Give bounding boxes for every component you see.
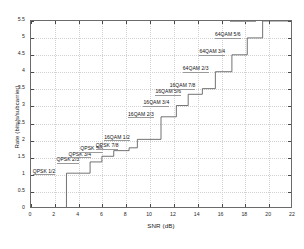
y-tick-label: 2 [0, 137, 25, 142]
y-tick-label: 3 [0, 103, 25, 108]
data-point-label: 16QAM 5/6 [155, 89, 181, 96]
staircase-curve [31, 21, 291, 207]
data-point-label: 64QAM 3/4 [199, 49, 225, 56]
x-tick-label: 20 [265, 212, 271, 217]
y-tick-label: 5.5 [0, 17, 25, 22]
x-tick-label: 4 [76, 212, 79, 217]
y-tick-label: 2.5 [0, 120, 25, 125]
y-tick-label: 0.5 [0, 188, 25, 193]
x-tick-label: 8 [124, 212, 127, 217]
x-axis-title: SNR (dB) [30, 222, 292, 229]
x-tick-label: 0 [29, 212, 32, 217]
data-point-label: 64QAM 2/3 [183, 66, 209, 73]
y-tick-label: 5 [0, 34, 25, 39]
y-tick-label: 0 [0, 205, 25, 210]
x-tick-label: 12 [170, 212, 176, 217]
data-point-label: QPSK 7/8 [96, 143, 119, 150]
y-tick-label: 3.5 [0, 86, 25, 91]
x-tick-label: 18 [241, 212, 247, 217]
data-point-label: QPSK 2/3 [57, 157, 80, 164]
x-tick-label: 10 [146, 212, 152, 217]
y-tick-label: 1 [0, 171, 25, 176]
x-tick-label: 16 [218, 212, 224, 217]
data-point-label: QPSK 1/2 [33, 169, 56, 176]
x-tick-label: 22 [289, 212, 295, 217]
x-tick-label: 2 [52, 212, 55, 217]
data-point-label: 16QAM 1/2 [104, 135, 130, 142]
data-point-label: 64QAM 7/8 [230, 20, 256, 22]
data-point-label: 64QAM 5/6 [215, 32, 241, 39]
x-tick-label: 14 [194, 212, 200, 217]
x-tick-label: 6 [100, 212, 103, 217]
data-point-label: QPSK 3/4 [68, 152, 91, 159]
y-tick-label: 4 [0, 69, 25, 74]
data-point-label: 16QAM 7/8 [170, 83, 196, 90]
y-tick-label: 1.5 [0, 154, 25, 159]
y-tick-label: 4.5 [0, 52, 25, 57]
data-point-label: 16QAM 3/4 [143, 100, 169, 107]
plot-area: QPSK 1/2QPSK 2/3QPSK 3/4QPSK 5/6QPSK 7/8… [30, 20, 292, 208]
y-axis-title: Rate (bits/s/subcarrier) [14, 62, 20, 172]
chart-figure: QPSK 1/2QPSK 2/3QPSK 3/4QPSK 5/6QPSK 7/8… [0, 0, 304, 249]
data-point-label: 16QAM 2/3 [128, 112, 154, 119]
